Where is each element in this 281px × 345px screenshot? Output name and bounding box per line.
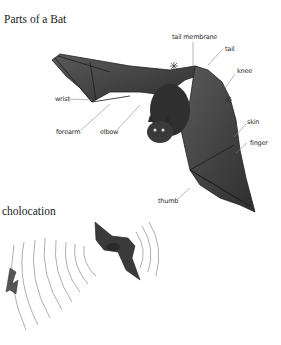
label-finger: finger (250, 139, 268, 147)
echolocation-illustration (6, 222, 159, 330)
label-thumb: thumb (158, 197, 178, 205)
label-elbow: elbow (100, 128, 118, 136)
label-wrist: wrist (55, 95, 70, 103)
label-knee: knee (237, 67, 252, 75)
label-forearm: forearm (56, 128, 80, 136)
label-tail-membrane: tail membrane (172, 33, 217, 41)
label-skin: skin (247, 118, 259, 126)
bat-anatomy-illustration (0, 0, 281, 345)
right-wing (180, 66, 255, 212)
section-title-echolocation: cholocation (2, 205, 56, 217)
label-tail: tail (225, 45, 234, 53)
